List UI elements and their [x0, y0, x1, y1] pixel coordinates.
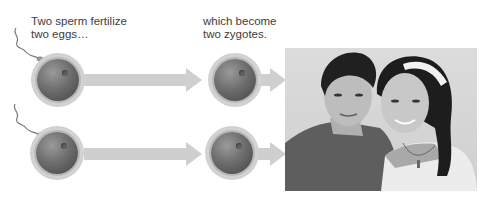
egg-cell-2: [30, 126, 84, 180]
twins-photo: [285, 48, 477, 191]
zygote-1: [208, 53, 262, 107]
zygote-2: [205, 126, 259, 180]
arrow-zygote-to-twins-1: [258, 71, 286, 89]
twins-illustration: [285, 48, 477, 191]
caption-become-zygotes: which become two zygotes.: [203, 15, 277, 41]
arrow-zygote-to-twins-2: [258, 145, 286, 163]
egg-cell-1: [31, 53, 85, 107]
arrow-egg-to-zygote-1: [84, 71, 202, 89]
arrow-egg-to-zygote-2: [84, 145, 202, 163]
